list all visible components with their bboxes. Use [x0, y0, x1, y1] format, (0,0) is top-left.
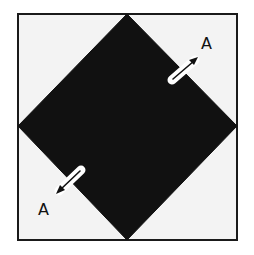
quilt-diagram: A A [0, 0, 254, 255]
label-top-right: A [201, 34, 212, 53]
label-bottom-left: A [38, 200, 49, 219]
